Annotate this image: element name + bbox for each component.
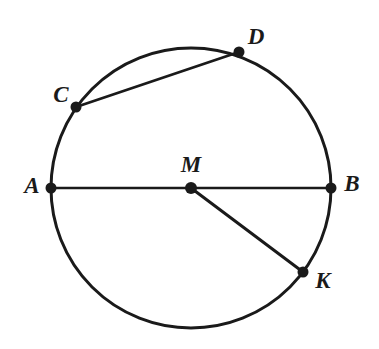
label-point-a: A	[22, 173, 39, 198]
label-point-c: C	[53, 82, 69, 107]
point-d-dot	[234, 47, 245, 58]
point-c-dot	[71, 102, 82, 113]
geometry-canvas: A B M C D K	[0, 0, 379, 349]
point-b-dot	[326, 183, 337, 194]
circle-geometry-diagram: A B M C D K	[0, 0, 379, 349]
label-point-m: M	[180, 152, 203, 177]
point-a-dot	[46, 183, 57, 194]
radius-mk-line	[191, 188, 303, 272]
label-point-k: K	[314, 268, 332, 293]
label-point-d: D	[247, 24, 265, 49]
point-m-dot	[185, 182, 197, 194]
label-point-b: B	[343, 171, 359, 196]
point-k-dot	[298, 267, 309, 278]
